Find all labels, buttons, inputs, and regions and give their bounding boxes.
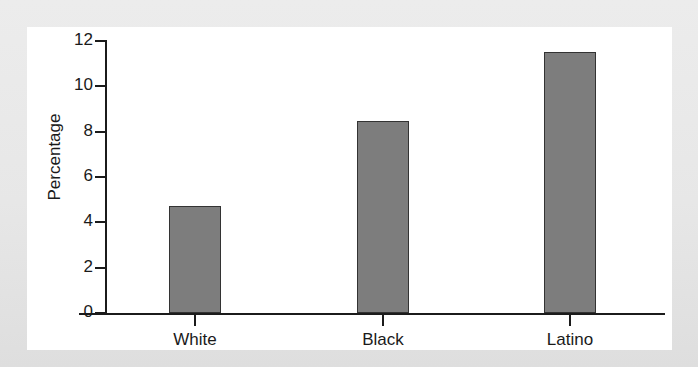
y-axis-tick [95,267,107,269]
x-axis-tick [194,315,196,326]
y-axis-tick-label: 2 [49,257,93,277]
x-axis-line [79,313,665,315]
y-axis-tick-label: 8 [49,121,93,141]
y-axis-tick [95,131,107,133]
x-axis-tick [382,315,384,326]
y-axis-tick-label: 4 [49,211,93,231]
x-axis-tick [569,315,571,326]
chart-plot-area: Percentage 024681012 WhiteBlackLatino [27,27,672,350]
y-axis-tick-label: 6 [49,166,93,186]
y-axis-tick [95,221,107,223]
figure-root: Percentage 024681012 WhiteBlackLatino [0,0,698,367]
y-axis-tick [95,312,107,314]
x-axis-category-label: White [173,330,216,350]
y-axis-tick-label: 0 [49,302,93,322]
bar-white [169,206,221,313]
bar-latino [544,52,596,313]
x-axis-category-label: Black [362,330,404,350]
y-axis-tick [95,176,107,178]
y-axis-tick [95,85,107,87]
y-axis-tick-label: 12 [49,30,93,50]
y-axis-tick [95,40,107,42]
y-axis-tick-label: 10 [49,75,93,95]
x-axis-category-label: Latino [547,330,593,350]
bar-black [357,121,409,313]
